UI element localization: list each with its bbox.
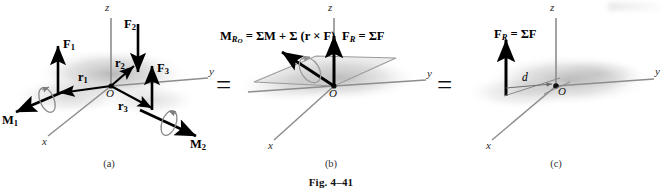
axis-label-x: x [268, 140, 273, 151]
label-F3-subscript: 3 [165, 66, 169, 76]
figure-caption: Fig. 4–41 [271, 176, 391, 188]
force-equation-symbol: F [342, 29, 350, 43]
axis-label-y: y [209, 66, 214, 77]
label-r3: r3 [118, 100, 128, 114]
axis-label-x: x [42, 136, 47, 147]
label-F1: F1 [63, 38, 75, 52]
force-equation-rhs: = ΣF [358, 29, 384, 43]
label-F1-subscript: 1 [71, 42, 75, 52]
axis-label-y: y [655, 66, 660, 77]
label-F1-symbol: F [63, 37, 71, 51]
force-equation-rhs: = ΣF [510, 27, 536, 41]
label-r2: r2 [115, 57, 125, 71]
label-F2-symbol: F [124, 17, 132, 31]
origin-label: O [558, 86, 566, 97]
label-M1-subscript: 1 [14, 118, 18, 128]
label-r1-subscript: 1 [84, 75, 88, 85]
label-M1: M1 [2, 114, 18, 128]
force-equation: FR = ΣF [494, 28, 537, 42]
label-M2-symbol: M [190, 137, 202, 151]
label-M1-symbol: M [2, 113, 14, 127]
force-equation: FR = ΣF [342, 30, 385, 44]
panel-b: z y x O MRO = ΣM + Σ (r × F) FR = ΣF (b)… [228, 0, 434, 194]
force-equation-subscript: R [502, 32, 508, 42]
axis-label-z: z [550, 2, 554, 13]
origin-label: O [106, 88, 114, 99]
panel-a-caption: (a) [79, 158, 139, 169]
moment-equation-symbol: M [220, 29, 232, 43]
label-M2: M2 [190, 138, 206, 152]
panel-c: z y x O FR = ΣF d (c) [448, 0, 666, 194]
axis-label-z: z [328, 2, 332, 13]
force-equation-subscript: R [350, 34, 356, 44]
label-r2-subscript: 2 [121, 61, 125, 71]
panel-c-caption: (c) [526, 158, 586, 169]
moment-equation-rhs: = ΣM + Σ (r × F) [246, 29, 336, 43]
distance-label-d: d [522, 72, 528, 84]
figure-4-41: z y x O F1 F2 F3 r1 r2 r3 M1 M2 (a) [0, 0, 666, 194]
panel-a: z y x O F1 F2 F3 r1 r2 r3 M1 M2 (a) [0, 0, 218, 194]
label-F3-symbol: F [157, 61, 165, 75]
label-F3: F3 [157, 62, 169, 76]
axis-label-x: x [486, 140, 491, 151]
label-F2: F2 [124, 18, 136, 32]
origin-label: O [329, 88, 337, 99]
axis-label-z: z [105, 2, 109, 13]
label-M2-subscript: 2 [202, 142, 206, 152]
label-r3-subscript: 3 [124, 104, 128, 114]
label-F2-subscript: 2 [132, 22, 136, 32]
label-r1: r1 [78, 71, 88, 85]
force-equation-symbol: F [494, 27, 502, 41]
panel-b-caption: (b) [301, 158, 361, 169]
moment-equation-subsubscript: O [237, 37, 242, 45]
axis-label-y: y [427, 68, 432, 79]
moment-equation: MRO = ΣM + Σ (r × F) [220, 30, 335, 45]
